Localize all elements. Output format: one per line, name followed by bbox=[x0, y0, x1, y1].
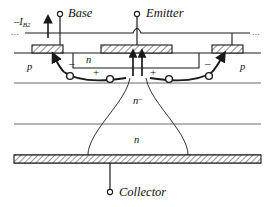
electron-sign-left: – bbox=[69, 58, 75, 69]
collector-terminal-lead bbox=[107, 163, 112, 195]
base-terminal-label: Base bbox=[68, 7, 92, 20]
region-label-n-drift: n– bbox=[133, 95, 142, 107]
layer-boundaries bbox=[14, 53, 261, 163]
base-contact-left bbox=[32, 45, 63, 53]
region-label-p-right: p bbox=[240, 62, 245, 73]
collector-terminal-label: Collector bbox=[119, 186, 166, 199]
emitter-injection-arrows bbox=[133, 56, 142, 76]
metal-line-left-ellipsis: ... bbox=[11, 28, 19, 37]
base-contact-right bbox=[212, 45, 243, 53]
electron-carrier bbox=[67, 73, 74, 80]
hole-sign-left: + bbox=[93, 67, 99, 78]
base-terminal-lead bbox=[57, 11, 62, 33]
region-label-n-buffer: n bbox=[134, 135, 139, 146]
emitter-terminal-label: Emitter bbox=[146, 7, 184, 20]
base-metal-drops bbox=[60, 33, 232, 46]
base-current-symbol: –I bbox=[14, 16, 23, 27]
base-current-subscript: B2 bbox=[23, 21, 31, 29]
hole-sign-right: + bbox=[150, 67, 156, 78]
electron-sign-right: – bbox=[205, 58, 211, 69]
electron-carrier bbox=[107, 76, 114, 83]
n-emitter-well bbox=[73, 53, 199, 68]
device-cross-section-figure: Base Emitter Collector –IB2 ... ... p p … bbox=[0, 0, 275, 207]
emitter-contact bbox=[101, 45, 172, 53]
region-label-n-emitter: n bbox=[86, 55, 91, 66]
collector-contact bbox=[14, 155, 261, 163]
metal-line-right-ellipsis: ... bbox=[252, 28, 260, 37]
region-label-p-left: p bbox=[27, 62, 32, 73]
electron-carrier bbox=[166, 76, 173, 83]
region-label-n-drift-superscript: – bbox=[138, 94, 142, 103]
electron-carrier bbox=[206, 73, 213, 80]
